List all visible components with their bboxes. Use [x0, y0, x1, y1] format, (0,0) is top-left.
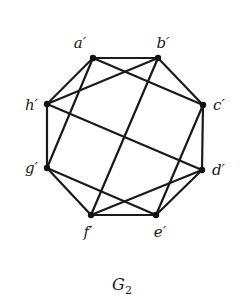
edge-c-e [156, 105, 203, 215]
graph-g2: a′b′c′d′e′f′g′h′ G2 [0, 0, 244, 299]
vertex-f [88, 212, 94, 218]
edge-b-c [158, 58, 203, 105]
vertex-label-b: b′ [156, 34, 170, 52]
edge-a-h [47, 58, 93, 104]
edge-g-e [47, 168, 156, 215]
vertex-e [153, 212, 159, 218]
graph-caption: G2 [112, 275, 132, 297]
vertex-label-e: e′ [154, 223, 167, 241]
vertex-h [44, 101, 50, 107]
vertex-label-d: d′ [212, 161, 226, 179]
vertex-a [90, 55, 96, 61]
vertex-c [200, 102, 206, 108]
vertex-label-a: a′ [74, 34, 87, 52]
vertex-label-h: h′ [25, 96, 39, 114]
vertex-label-c: c′ [213, 96, 225, 114]
vertex-b [155, 55, 161, 61]
edge-d-e [156, 170, 202, 215]
edge-g-f [47, 168, 91, 215]
vertex-g [44, 165, 50, 171]
edge-c-d [202, 105, 203, 170]
vertex-label-f: f′ [83, 223, 94, 241]
vertex-label-g: g′ [25, 159, 39, 177]
vertex-d [199, 167, 205, 173]
edges-group [47, 58, 203, 215]
